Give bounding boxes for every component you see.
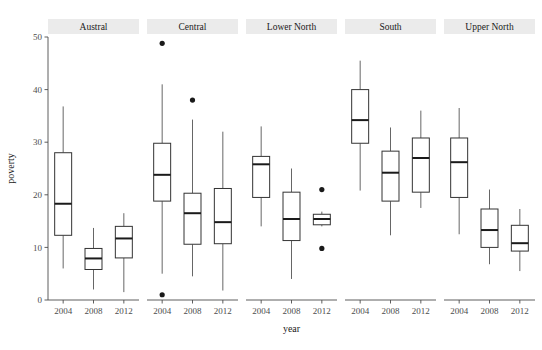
outlier-point <box>319 246 324 251</box>
box-rect <box>154 143 171 201</box>
panel-strip-label: Upper North <box>465 22 514 32</box>
outlier-point <box>190 98 195 103</box>
panel-strip-label: Lower North <box>267 22 317 32</box>
box-rect <box>511 225 528 251</box>
box-rect <box>115 226 132 258</box>
box-rect <box>184 193 201 244</box>
x-axis-tick-label: 2012 <box>214 306 232 316</box>
x-axis-title: year <box>283 323 301 334</box>
x-axis-tick-label: 2004 <box>153 306 172 316</box>
x-axis-tick-label: 2012 <box>115 306 133 316</box>
box-rect <box>352 90 369 144</box>
boxplot-box <box>85 228 102 290</box>
box-rect <box>481 209 498 247</box>
box-rect <box>382 151 399 201</box>
outlier-point <box>160 292 165 297</box>
boxplot-box <box>412 111 429 208</box>
x-axis-tick-label: 2012 <box>412 306 430 316</box>
y-axis-tick-label: 50 <box>33 32 43 42</box>
boxplot-box <box>313 187 330 251</box>
boxplot-box <box>511 209 528 271</box>
x-axis-tick-label: 2004 <box>450 306 469 316</box>
panel-strip-label: Central <box>179 22 207 32</box>
x-axis-tick-label: 2008 <box>283 306 302 316</box>
box-rect <box>412 138 429 192</box>
y-axis-tick-label: 30 <box>33 137 43 147</box>
outlier-point <box>160 41 165 46</box>
boxplot-box <box>352 61 369 191</box>
boxplot-box <box>154 41 171 298</box>
boxplot-chart: 01020304050povertyAustral200420082012Cen… <box>0 0 542 350</box>
x-axis-tick-label: 2004 <box>252 306 271 316</box>
box-rect <box>283 192 300 240</box>
boxplot-box <box>184 98 201 277</box>
y-axis-tick-label: 10 <box>33 243 43 253</box>
boxplot-box <box>481 190 498 265</box>
box-rect <box>451 138 468 197</box>
y-axis-tick-label: 20 <box>33 190 43 200</box>
y-axis-tick-label: 40 <box>33 85 43 95</box>
x-axis-tick-label: 2008 <box>382 306 401 316</box>
boxplot-box <box>253 126 270 226</box>
x-axis-tick-label: 2008 <box>85 306 104 316</box>
boxplot-box <box>382 127 399 235</box>
x-axis-tick-label: 2004 <box>351 306 370 316</box>
chart-canvas: 01020304050povertyAustral200420082012Cen… <box>0 0 542 350</box>
x-axis-tick-label: 2008 <box>184 306 203 316</box>
x-axis-tick-label: 2012 <box>313 306 331 316</box>
boxplot-box <box>451 108 468 234</box>
boxplot-box <box>115 213 132 292</box>
box-rect <box>253 156 270 197</box>
boxplot-box <box>55 106 72 268</box>
box-rect <box>214 188 231 243</box>
x-axis-tick-label: 2012 <box>511 306 529 316</box>
boxplot-box <box>214 132 231 291</box>
box-rect <box>55 153 72 236</box>
panel-strip-label: Austral <box>80 22 108 32</box>
x-axis-tick-label: 2008 <box>481 306 500 316</box>
x-axis-tick-label: 2004 <box>54 306 73 316</box>
y-axis-title: poverty <box>5 153 16 184</box>
panel-strip-label: South <box>379 22 401 32</box>
boxplot-box <box>283 169 300 279</box>
y-axis-tick-label: 0 <box>38 295 43 305</box>
outlier-point <box>319 187 324 192</box>
